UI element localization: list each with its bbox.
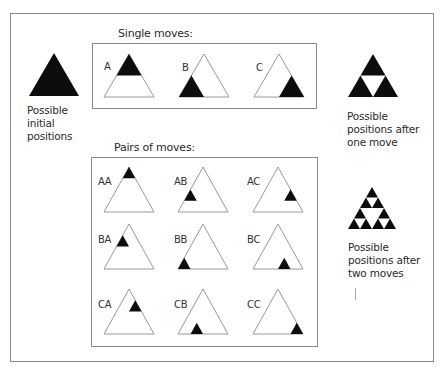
pairs-of-moves-title: Pairs of moves: <box>114 141 195 154</box>
sierpinski-level2-icon <box>348 187 396 229</box>
caption-one-move: Possible positions after one move <box>347 110 419 149</box>
sub-triangle <box>378 208 390 219</box>
sub-triangle <box>372 219 384 230</box>
caption-line: two moves <box>348 267 420 280</box>
pair-label-ca: CA <box>98 299 111 310</box>
sub-triangle <box>360 198 372 209</box>
sub-triangle <box>372 198 384 209</box>
caption-line: positions after <box>348 254 420 267</box>
caption-line: positions after <box>347 123 419 136</box>
caption-line: one move <box>347 136 419 149</box>
caption-line: Possible <box>27 104 72 117</box>
position-aa <box>123 167 136 178</box>
sub-triangle <box>373 76 398 98</box>
single-moves-title: Single moves: <box>118 27 193 40</box>
sub-triangle <box>361 54 386 76</box>
pair-label-cb: CB <box>174 299 187 310</box>
single-label-a: A <box>104 61 111 72</box>
sub-triangle <box>348 76 373 98</box>
caption-line: initial <box>27 117 72 130</box>
caption-line: positions <box>27 130 72 143</box>
caption-initial: Possible initial positions <box>27 104 72 143</box>
caption-two-moves: Possible positions after two moves <box>348 241 420 280</box>
pairs-moves-triangles <box>104 167 303 334</box>
pair-label-ab: AB <box>174 176 187 187</box>
caption-line: Possible <box>348 241 420 254</box>
caption-line: Possible <box>347 110 419 123</box>
outline-triangle <box>178 167 228 212</box>
outline-triangle <box>253 167 303 212</box>
single-moves-triangles <box>104 54 304 97</box>
pair-label-bc: BC <box>247 234 260 245</box>
sierpinski-level1-icon <box>348 54 398 97</box>
pair-label-ac: AC <box>247 176 260 187</box>
position-a <box>117 54 142 76</box>
single-label-b: B <box>182 62 189 73</box>
sub-triangle <box>354 208 366 219</box>
pair-label-cc: CC <box>247 299 260 310</box>
outline-triangle <box>253 224 303 269</box>
pair-label-ba: BA <box>98 234 111 245</box>
diagram-canvas <box>0 0 443 375</box>
sub-triangle <box>348 219 360 230</box>
sub-triangle <box>384 219 396 230</box>
initial-position-triangle <box>29 53 79 96</box>
sub-triangle <box>360 219 372 230</box>
single-label-c: C <box>256 62 263 73</box>
pair-label-bb: BB <box>174 234 187 245</box>
pair-label-aa: AA <box>98 176 111 187</box>
sub-triangle <box>366 187 378 198</box>
outline-triangle <box>178 289 228 334</box>
